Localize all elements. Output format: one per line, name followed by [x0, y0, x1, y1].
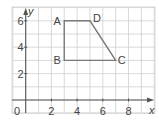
x-tick-label: 8 [125, 105, 131, 117]
x-tick-label: 2 [48, 105, 54, 117]
tick-labels: 2468246 [17, 15, 131, 117]
x-tick-label: 6 [100, 105, 106, 117]
x-tick-label: 4 [74, 105, 80, 117]
vertex-label-c: C [118, 54, 126, 66]
vertex-label-a: A [54, 15, 62, 27]
y-tick-label: 6 [17, 15, 23, 27]
y-tick-label: 2 [17, 68, 23, 80]
coordinate-grid-diagram: 2468246 ABCD x y 0 [0, 0, 159, 121]
origin-label: 0 [14, 105, 20, 117]
vertex-label-b: B [54, 54, 61, 66]
vertex-label-d: D [93, 12, 101, 24]
x-axis-label: x [148, 104, 155, 116]
x-axis-arrow-icon [147, 98, 154, 103]
y-tick-label: 4 [17, 41, 23, 53]
